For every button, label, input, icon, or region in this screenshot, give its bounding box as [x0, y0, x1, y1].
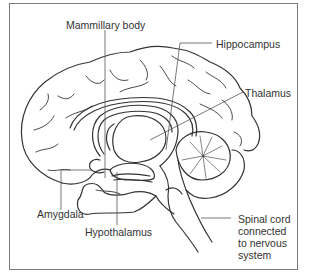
label-spinal-cord-line2: connected [238, 225, 291, 237]
label-amygdala: Amygdala [37, 208, 84, 220]
label-mammillary-body: Mammillary body [66, 19, 145, 31]
label-spinal-cord-line3: to nervous [238, 237, 291, 249]
label-spinal-cord-line1: Spinal cord [238, 213, 291, 225]
label-hippocampus: Hippocampus [216, 38, 280, 50]
label-spinal-cord: Spinal cord connected to nervous system [238, 213, 291, 261]
thalamus [113, 116, 166, 163]
label-thalamus: Thalamus [245, 87, 291, 99]
leader-amygdala [61, 170, 92, 210]
brainstem [160, 166, 198, 252]
label-hypothalamus: Hypothalamus [85, 226, 152, 238]
label-spinal-cord-line4: system [238, 249, 291, 261]
